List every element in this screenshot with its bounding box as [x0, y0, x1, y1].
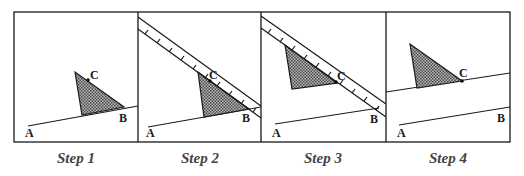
ruler — [138, 17, 261, 118]
label-b: B — [370, 112, 378, 126]
label-b: B — [242, 111, 250, 125]
label-a: A — [272, 126, 281, 140]
label-a: A — [146, 126, 155, 140]
label-c: C — [209, 68, 218, 82]
label-b: B — [119, 111, 127, 125]
step-3-caption: Step 3 — [261, 150, 385, 167]
label-a: A — [25, 126, 34, 140]
line-ab — [399, 107, 510, 125]
line-ab — [275, 108, 379, 124]
panel-step-3: C A B — [261, 16, 386, 140]
label-b: B — [497, 111, 505, 125]
step-1-caption: Step 1 — [14, 150, 138, 167]
panel-step-1: C A B — [25, 68, 138, 140]
triangle-tool — [410, 44, 462, 88]
label-c: C — [90, 68, 99, 82]
panel-step-4: C A B — [386, 44, 510, 140]
step-2-caption: Step 2 — [138, 150, 262, 167]
label-a: A — [397, 126, 406, 140]
panel-step-2: C A B — [138, 17, 261, 140]
step-4-caption: Step 4 — [386, 150, 510, 167]
label-c: C — [459, 66, 468, 80]
ruler — [261, 16, 386, 117]
triangle-tool — [75, 72, 124, 115]
label-c: C — [337, 69, 346, 83]
